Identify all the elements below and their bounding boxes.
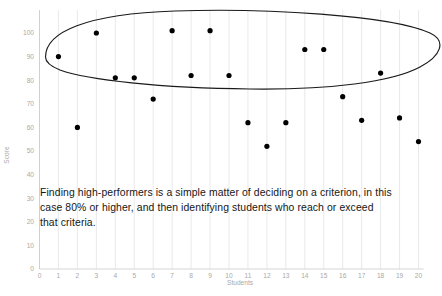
- x-axis-title: Students: [227, 279, 254, 286]
- x-tick-label: 5: [132, 272, 136, 279]
- x-tick-label: 0: [38, 272, 42, 279]
- y-tick-label: 90: [27, 53, 35, 60]
- x-tick-label: 3: [95, 272, 99, 279]
- data-point: [170, 28, 175, 33]
- y-axis-title: Score: [3, 146, 10, 164]
- y-tick-label: 30: [27, 195, 35, 202]
- x-axis-tick-labels: 01234567891011121314151617181920: [38, 272, 423, 279]
- x-tick-label: 8: [189, 272, 193, 279]
- data-point: [94, 30, 99, 35]
- y-tick-label: 50: [27, 147, 35, 154]
- data-point: [56, 54, 61, 59]
- data-point: [397, 115, 402, 120]
- data-point: [75, 125, 80, 130]
- data-point: [416, 139, 421, 144]
- y-tick-label: 70: [27, 100, 35, 107]
- chart-canvas: 0102030405060708090100 01234567891011121…: [0, 0, 442, 296]
- x-tick-label: 12: [263, 272, 271, 279]
- x-tick-label: 19: [396, 272, 404, 279]
- data-point: [226, 73, 231, 78]
- data-point: [113, 75, 118, 80]
- y-tick-label: 80: [27, 77, 35, 84]
- data-point: [132, 75, 137, 80]
- data-point: [245, 120, 250, 125]
- data-point: [264, 144, 269, 149]
- y-tick-label: 40: [27, 171, 35, 178]
- data-point: [151, 96, 156, 101]
- x-tick-label: 13: [282, 272, 290, 279]
- x-tick-label: 18: [377, 272, 385, 279]
- x-tick-label: 9: [208, 272, 212, 279]
- data-point: [207, 28, 212, 33]
- scatter-chart-figure: 0102030405060708090100 01234567891011121…: [0, 0, 442, 296]
- x-tick-label: 7: [170, 272, 174, 279]
- x-tick-label: 14: [301, 272, 309, 279]
- data-point: [302, 47, 307, 52]
- y-tick-label: 0: [30, 265, 34, 272]
- y-axis-tick-labels: 0102030405060708090100: [23, 29, 34, 272]
- caption-text: Finding high-performers is a simple matt…: [40, 186, 392, 230]
- x-tick-label: 10: [225, 272, 233, 279]
- data-point: [359, 118, 364, 123]
- data-point: [321, 47, 326, 52]
- x-tick-label: 20: [415, 272, 423, 279]
- data-point: [378, 71, 383, 76]
- x-tick-label: 1: [57, 272, 61, 279]
- x-tick-label: 6: [151, 272, 155, 279]
- x-tick-label: 4: [113, 272, 117, 279]
- y-tick-label: 60: [27, 124, 35, 131]
- data-point: [340, 94, 345, 99]
- y-tick-label: 10: [27, 242, 35, 249]
- data-point: [283, 120, 288, 125]
- y-tick-label: 20: [27, 218, 35, 225]
- x-tick-label: 2: [76, 272, 80, 279]
- x-tick-label: 16: [339, 272, 347, 279]
- x-tick-label: 11: [245, 272, 252, 279]
- data-point: [189, 73, 194, 78]
- x-tick-label: 15: [320, 272, 328, 279]
- x-tick-label: 17: [358, 272, 366, 279]
- y-tick-label: 100: [23, 29, 34, 36]
